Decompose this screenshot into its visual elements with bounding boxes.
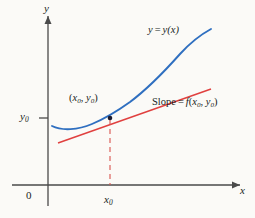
x-axis-arrowhead	[232, 182, 240, 189]
differential-equation-slope-diagram: y x 0 y0 x0 y=y(x) (x0, y0) Slope=f(x0, …	[0, 0, 255, 218]
curve-label-arg: (x)	[167, 24, 179, 35]
origin-label: 0	[26, 190, 32, 201]
x0-tick-label-sub: 0	[109, 198, 113, 207]
slope-label-equals: =	[176, 96, 186, 107]
y-axis-label: y	[44, 3, 49, 14]
y0-tick-label-sub: 0	[25, 115, 29, 124]
point-label-close: )	[94, 92, 98, 103]
y-axis-arrowhead	[45, 16, 52, 24]
slope-label: Slope=f(x0, y0)	[152, 97, 217, 109]
slope-label-close: )	[214, 96, 218, 107]
tangency-point-label: (x0, y0)	[69, 93, 98, 105]
curve-label-equals: =	[153, 24, 163, 35]
curve-equation-label: y=y(x)	[148, 25, 179, 36]
y0-tick-label: y0	[20, 111, 29, 124]
slope-label-word: Slope	[152, 96, 176, 107]
curve-label-lhs: y	[148, 24, 153, 35]
x-axis-label: x	[240, 185, 245, 196]
tangency-point-marker	[108, 116, 113, 121]
x0-tick-label: x0	[104, 194, 113, 207]
solution-curve	[52, 29, 211, 129]
